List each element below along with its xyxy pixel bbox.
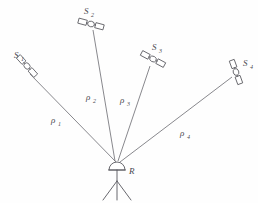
range-line-rho4 (120, 77, 232, 162)
range-lines-group (30, 30, 232, 162)
range-subscript-rho2: 2 (93, 98, 96, 104)
range-label-rho1: ρ (50, 115, 56, 125)
receiver-label: R (128, 166, 135, 176)
satellite-label-s2: S (84, 6, 89, 16)
range-label-rho4: ρ (179, 128, 185, 138)
satellite-body (87, 20, 95, 27)
satellite-s1 (16, 54, 38, 77)
satellite-subscript-s3: 3 (158, 48, 162, 54)
range-subscript-rho3: 3 (126, 101, 130, 107)
range-line-rho1 (30, 74, 116, 162)
satellite-body (232, 68, 240, 76)
solar-panel-left (78, 18, 88, 25)
range-label-rho3: ρ (119, 95, 125, 105)
solar-panel-left (229, 59, 237, 68)
satellite-label-s1: S (14, 50, 19, 60)
solar-panel-left (140, 51, 150, 60)
range-subscript-rho1: 1 (58, 121, 61, 127)
solar-panel-right (156, 59, 166, 68)
range-subscript-rho4: 4 (187, 134, 190, 140)
solar-panel-right (235, 75, 243, 84)
antenna-dome-icon (109, 162, 125, 170)
satellite-label-s3: S (152, 42, 157, 52)
satellite-label-s4: S (243, 58, 248, 68)
receiver-station (103, 162, 131, 200)
gnss-pseudorange-diagram: S 1 S 2 S 3 S 4 ρ 1 ρ 2 ρ 3 ρ 4 R (0, 0, 258, 203)
solar-panel-right (95, 23, 105, 30)
figure-canvas: S 1 S 2 S 3 S 4 ρ 1 ρ 2 ρ 3 ρ 4 R (0, 0, 258, 203)
tripod-leg-right (117, 181, 131, 200)
range-line-rho3 (118, 66, 150, 161)
tripod-leg-left (103, 181, 117, 200)
satellite-subscript-s1: 1 (21, 56, 24, 62)
satellite-s2 (78, 18, 105, 30)
satellite-subscript-s2: 2 (91, 12, 94, 18)
satellite-subscript-s4: 4 (250, 64, 253, 70)
range-label-rho2: ρ (85, 92, 91, 102)
satellite-body (149, 55, 158, 63)
satellite-s4 (229, 59, 243, 84)
